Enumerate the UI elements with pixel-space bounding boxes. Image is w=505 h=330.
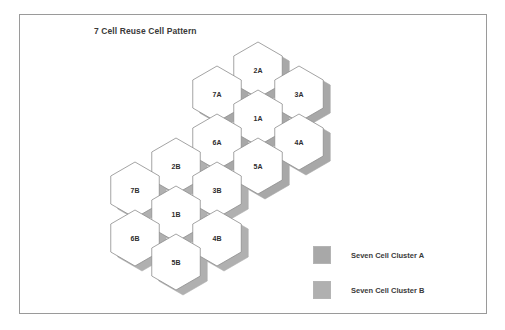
hex-cell-label-3b: 3B	[213, 187, 222, 194]
hex-cell-label-2a: 2A	[254, 67, 263, 74]
hexagon-cells-layer	[111, 42, 324, 290]
hex-cell-label-7a: 7A	[213, 91, 222, 98]
hex-cell-label-3a: 3A	[295, 91, 304, 98]
figure-root: 7 Cell Reuse Cell Pattern 2A7A3A1A6A4A5A…	[0, 0, 505, 330]
legend-label-1: Seven Cell Cluster A	[351, 251, 424, 260]
legend-swatch-2	[313, 281, 331, 299]
hex-cell-label-1b: 1B	[172, 211, 181, 218]
hex-cell-label-7b: 7B	[131, 187, 140, 194]
legend: Seven Cell Cluster ASeven Cell Cluster B	[313, 246, 473, 316]
legend-item-1: Seven Cell Cluster A	[313, 246, 473, 264]
hex-cell-label-6a: 6A	[213, 139, 222, 146]
hex-cell-label-5a: 5A	[254, 163, 263, 170]
legend-label-2: Seven Cell Cluster B	[351, 286, 424, 295]
legend-item-2: Seven Cell Cluster B	[313, 281, 473, 299]
legend-swatch-1	[313, 246, 331, 264]
hex-cell-label-5b: 5B	[172, 259, 181, 266]
hex-cell-label-2b: 2B	[172, 163, 181, 170]
hex-cell-label-1a: 1A	[254, 115, 263, 122]
hex-cell-label-4a: 4A	[295, 139, 304, 146]
hex-cell-label-4b: 4B	[213, 235, 222, 242]
hex-cell-label-6b: 6B	[131, 235, 140, 242]
